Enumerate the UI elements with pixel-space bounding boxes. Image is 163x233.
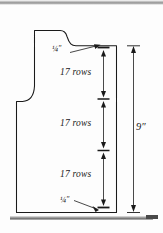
label-row-segment-1: 17 rows: [60, 68, 91, 78]
scan-artifact-bottom-band: [10, 216, 153, 220]
schematic-page: ¼″ 17 rows 17 rows 17 rows ¼″ 9″: [0, 0, 163, 233]
garment-schematic-drawing: [0, 0, 163, 233]
scan-artifact-bottom-corner: [146, 215, 158, 219]
row-segment-2-arrow-up: [101, 101, 106, 108]
row-dimension-line-group: [98, 48, 110, 208]
label-bottom-seam-allowance: ¼″: [60, 196, 69, 204]
row-segment-1-arrow-down: [101, 91, 106, 98]
label-row-segment-3: 17 rows: [60, 170, 91, 180]
row-segment-2-arrow-down: [101, 142, 106, 149]
overall-dimension-arrow-down: [131, 205, 136, 212]
label-overall-height: 9″: [136, 122, 146, 133]
overall-dimension-arrow-up: [131, 46, 136, 53]
row-segment-3-arrow-up: [101, 153, 106, 160]
bottom-seam-leader-line: [74, 201, 97, 210]
top-seam-leader-line: [70, 46, 98, 53]
label-row-segment-2: 17 rows: [60, 119, 91, 129]
label-top-seam-allowance: ¼″: [52, 45, 61, 53]
row-segment-1-arrow-up: [101, 50, 106, 57]
row-segment-3-arrow-down: [101, 200, 106, 207]
